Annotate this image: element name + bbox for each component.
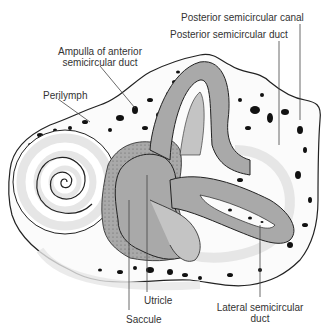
label-posterior-semicircular-canal: Posterior semicircular canal — [181, 12, 304, 23]
label-ampulla-line2: semicircular duct — [55, 57, 145, 68]
label-ampulla-line1: Ampulla of anterior — [55, 46, 145, 57]
cochlea — [13, 130, 117, 234]
label-utricle: Utricle — [144, 295, 172, 306]
label-ampulla-of-anterior-semicircular-duct: Ampulla of anterior semicircular duct — [55, 46, 145, 68]
label-lateral-line1: Lateral semicircular — [212, 302, 308, 313]
inner-ear-diagram — [0, 0, 328, 333]
label-perilymph: Perilymph — [43, 90, 87, 101]
label-posterior-semicircular-duct: Posterior semicircular duct — [170, 29, 288, 40]
label-lateral-semicircular-duct: Lateral semicircular duct — [212, 302, 308, 324]
label-lateral-line2: duct — [212, 313, 308, 324]
label-saccule: Saccule — [126, 314, 162, 325]
